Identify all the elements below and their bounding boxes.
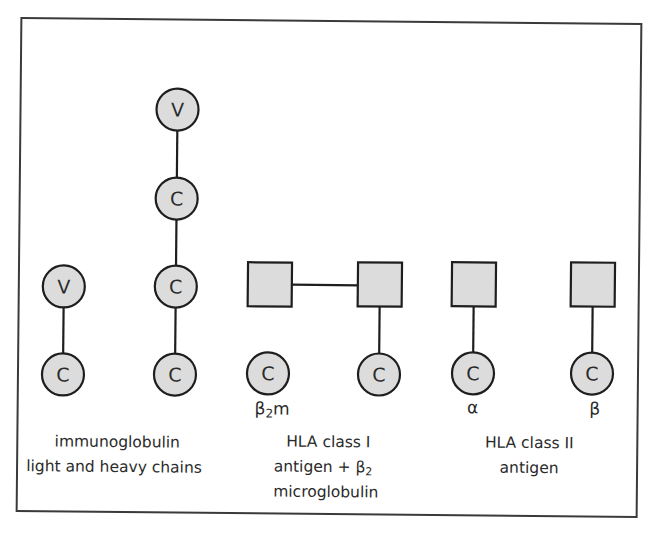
hla2-beta-square — [571, 262, 615, 306]
diagram-canvas: V C V C C C — [0, 0, 655, 537]
hla2-beta-c-domain: C — [571, 352, 613, 394]
hla1-caption-line1: HLA class I — [286, 433, 370, 452]
ig-caption-line1: immunoglobulin — [55, 432, 181, 451]
ig-heavy-c3-domain: C — [154, 353, 196, 395]
alpha-label: α — [467, 397, 478, 417]
ig-light-v-domain: V — [43, 265, 85, 307]
hla1-alpha2-square — [358, 262, 402, 306]
domain-letter: C — [169, 275, 182, 297]
hla1-c-domain: C — [358, 353, 400, 395]
hla2-caption-line2: antigen — [500, 459, 559, 478]
domain-letter: V — [57, 275, 70, 297]
domain-letter: V — [171, 98, 184, 120]
hla1-square-connector — [292, 285, 359, 286]
hla1-caption-line3: microglobulin — [273, 482, 378, 501]
beta-label: β — [589, 399, 600, 419]
hla1-alpha1-square — [248, 262, 292, 306]
domain-letter: C — [261, 362, 274, 384]
hla1-caption-line2: antigen + β2 — [274, 457, 373, 478]
hla1-caption: HLA class I antigen + β2 microglobulin — [273, 432, 379, 501]
hla2-alpha-square — [452, 262, 496, 306]
domain-letter: C — [466, 362, 479, 384]
ig-heavy-v-domain: V — [156, 88, 198, 130]
ig-light-c-domain: C — [42, 353, 84, 395]
domain-letter: C — [168, 363, 181, 385]
ig-heavy-c2-domain: C — [155, 265, 197, 307]
ig-heavy-c1-domain: C — [155, 177, 197, 219]
domain-letter: C — [372, 363, 385, 385]
hla2-alpha-c-domain: C — [452, 352, 494, 394]
hla2-caption-line1: HLA class II — [485, 434, 574, 453]
domain-letter: C — [56, 363, 69, 385]
domain-letter: C — [585, 362, 598, 384]
ig-caption-line2: light and heavy chains — [26, 457, 202, 477]
diagram-stage: V C V C C C — [0, 0, 655, 537]
domain-letter: C — [170, 187, 183, 209]
